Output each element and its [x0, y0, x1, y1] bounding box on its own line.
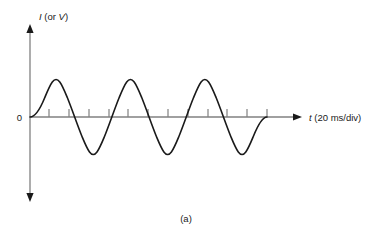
x-axis-ticks [49, 109, 267, 117]
x-axis-arrow-right-icon [293, 113, 302, 120]
y-axis-arrow-down-icon [26, 193, 33, 202]
x-axis-label: t (20 ms/div) [309, 112, 361, 123]
origin-label: 0 [17, 112, 22, 123]
y-axis-label-connector: (or [42, 11, 59, 22]
y-axis-label: I (or V) [39, 11, 68, 22]
sine-wave-figure: 0 I (or V) t (20 ms/div) (a) [0, 0, 373, 240]
y-axis-label-close-paren: ) [65, 11, 68, 22]
figure-caption: (a) [180, 213, 192, 224]
y-axis-arrow-up-icon [26, 24, 33, 33]
x-axis-label-units: (20 ms/div) [312, 112, 362, 123]
x-axis [30, 113, 302, 120]
figure-svg: 0 I (or V) t (20 ms/div) (a) [0, 0, 373, 240]
y-axis [26, 24, 33, 202]
